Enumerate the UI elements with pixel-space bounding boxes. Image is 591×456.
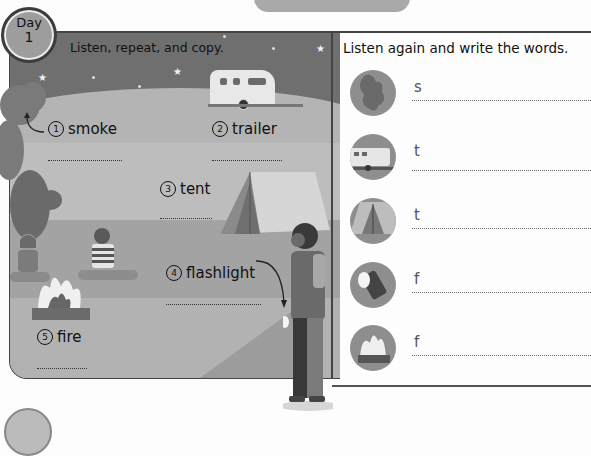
left-instruction: Listen, repeat, and copy. [70,40,224,55]
header-rule [9,31,591,33]
write-row-fire: f [350,325,591,375]
label-smoke: 1 smoke [48,120,117,138]
label-trailer: 2 trailer [212,120,277,138]
right-instruction: Listen again and write the words. [343,40,568,56]
trailer-window [220,78,227,85]
first-letter: t [414,206,420,224]
write-line[interactable] [412,228,591,229]
smoke-arrow [22,112,46,134]
copy-line-smoke[interactable] [48,160,122,161]
day-number: 1 [4,30,54,45]
label-tent: 3 tent [160,180,211,198]
tent-icon [350,198,396,244]
first-letter: f [414,270,419,288]
copy-line-fire[interactable] [37,368,87,369]
trailer-shadow [208,104,303,107]
write-line[interactable] [412,100,591,101]
day-label: Day [4,16,54,30]
first-letter: t [414,142,420,160]
item-number: 5 [37,329,53,345]
fire-icon [350,325,396,371]
fire-illustration [28,268,93,323]
first-letter: s [414,78,422,96]
section-bottom-rule [332,385,591,387]
item-number: 2 [212,121,228,137]
item-word: tent [180,180,211,198]
trailer-window [233,78,240,85]
first-letter: f [414,333,419,351]
flashlight-icon [350,262,396,308]
item-word: fire [57,328,82,346]
write-row-trailer: t [350,134,591,184]
label-flashlight: 4 flashlight [166,264,255,282]
item-word: flashlight [186,264,255,282]
star-dot [272,47,275,50]
write-line[interactable] [412,292,591,293]
copy-line-tent[interactable] [160,218,212,219]
next-day-badge [4,408,52,456]
item-word: smoke [68,120,117,138]
trailer-illustration [210,70,275,105]
write-row-smoke: s [350,70,591,120]
star-icon: ★ [173,67,182,77]
write-row-flashlight: f [350,262,591,312]
copy-line-flashlight[interactable] [166,304,261,305]
item-number: 3 [160,181,176,197]
star-dot [223,35,226,38]
item-word: trailer [232,120,277,138]
item-number: 1 [48,121,64,137]
top-tab [254,0,410,12]
star-icon: ★ [38,73,47,83]
write-line[interactable] [412,355,591,356]
smoke-cloud [20,82,46,112]
trailer-icon [350,134,396,180]
write-row-tent: t [350,198,591,248]
smoke-cloud [40,190,62,210]
day-badge: Day 1 [1,7,57,63]
copy-line-trailer[interactable] [212,160,282,161]
star-dot [138,85,141,88]
star-dot [92,76,95,79]
write-line[interactable] [412,170,591,171]
star-icon: ★ [316,44,325,54]
label-fire: 5 fire [37,328,82,346]
person-with-flashlight [283,218,333,413]
trailer-window [248,78,266,85]
item-number: 4 [166,265,182,281]
smoke-icon [350,70,396,116]
